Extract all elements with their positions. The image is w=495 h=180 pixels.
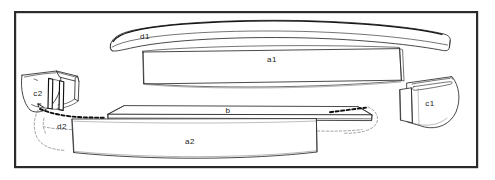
b-top-face — [108, 106, 372, 115]
d2-hidden-inner — [43, 118, 46, 135]
c2-right-fin — [75, 76, 79, 101]
a2-hidden-right-extension — [317, 130, 362, 132]
part-d1-upper-curved-trim-strip — [110, 20, 450, 51]
part-a1-upper-main-panel — [143, 46, 404, 88]
c2-inner-fin-right — [59, 81, 64, 111]
a1-face — [143, 49, 401, 84]
label-a1: a1 — [267, 55, 277, 64]
c1-front-step-face — [400, 88, 412, 123]
drawing-canvas: d1 a1 c2 d2 b a2 c1 — [0, 0, 495, 180]
part-a2-lower-main-panel — [44, 119, 362, 159]
c2-inner-fin-left — [48, 78, 53, 109]
label-b: b — [225, 106, 230, 115]
label-c2: c2 — [33, 89, 43, 98]
d2-hidden-edge-heavy — [40, 109, 106, 118]
label-a2: a2 — [185, 137, 195, 146]
label-d1: d1 — [140, 32, 150, 41]
label-d2: d2 — [57, 122, 67, 131]
part-c2-left-end-bracket — [21, 71, 79, 112]
technical-drawing-figure: d1 a1 c2 d2 b a2 c1 — [0, 0, 495, 180]
c2-channel-bottom — [52, 109, 59, 110]
label-c1: c1 — [425, 99, 435, 108]
